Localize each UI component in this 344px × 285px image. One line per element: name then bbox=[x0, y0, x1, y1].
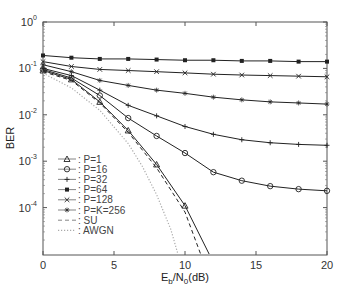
star-marker bbox=[154, 88, 159, 93]
star-marker bbox=[268, 99, 273, 104]
series-line bbox=[43, 71, 209, 254]
x-tick-label: 20 bbox=[321, 259, 333, 271]
star-marker bbox=[183, 91, 188, 96]
square-marker bbox=[41, 53, 45, 57]
y-tick-label: 100 bbox=[21, 14, 37, 28]
plus-marker bbox=[97, 88, 102, 93]
square-marker bbox=[98, 57, 102, 61]
star-marker bbox=[325, 102, 330, 107]
star-marker bbox=[211, 95, 216, 100]
series-line bbox=[43, 68, 327, 145]
square-marker bbox=[240, 59, 244, 63]
series-p-32 bbox=[41, 66, 330, 148]
legend-item: : AWGN bbox=[58, 225, 114, 236]
star-marker bbox=[41, 62, 46, 67]
square-marker bbox=[155, 58, 159, 62]
plus-marker bbox=[183, 124, 188, 129]
series-p-k-256 bbox=[41, 62, 330, 106]
plus-marker bbox=[211, 132, 216, 137]
star-marker bbox=[69, 69, 74, 74]
square-marker bbox=[183, 58, 187, 62]
plus-marker bbox=[65, 177, 70, 182]
square-marker bbox=[268, 59, 272, 63]
y-tick-label: 10-4 bbox=[19, 200, 38, 214]
plus-marker bbox=[268, 140, 273, 145]
star-marker bbox=[65, 208, 70, 213]
plus-marker bbox=[296, 142, 301, 147]
star-marker bbox=[239, 97, 244, 102]
series-line bbox=[43, 72, 201, 254]
square-marker bbox=[65, 188, 69, 192]
series-p-64 bbox=[41, 53, 329, 63]
square-marker bbox=[325, 60, 329, 64]
plus-marker bbox=[239, 137, 244, 142]
x-axis-label: Eb/N0(dB) bbox=[161, 271, 209, 285]
x-tick-label: 5 bbox=[111, 259, 117, 271]
x-tick-label: 15 bbox=[250, 259, 262, 271]
legend: : P=1: P=16: P=32: P=64: P=128: P=K=256:… bbox=[58, 154, 126, 236]
star-marker bbox=[296, 100, 301, 105]
plus-marker bbox=[154, 113, 159, 118]
y-tick-label: 10-3 bbox=[19, 153, 38, 167]
square-marker bbox=[69, 56, 73, 60]
series-p-128 bbox=[41, 59, 330, 79]
series-su bbox=[43, 72, 201, 254]
ber-chart: 0510152010010-110-210-310-4 : P=1: P=16:… bbox=[0, 0, 344, 285]
square-marker bbox=[126, 57, 130, 61]
series-p-1 bbox=[40, 68, 209, 254]
star-marker bbox=[126, 83, 131, 88]
series-line bbox=[43, 62, 327, 77]
y-tick-label: 10-2 bbox=[19, 107, 38, 121]
y-tick-label: 10-1 bbox=[19, 60, 38, 74]
square-marker bbox=[211, 58, 215, 62]
series-line bbox=[43, 65, 327, 104]
axis-ticks: 0510152010010-110-210-310-4 bbox=[19, 14, 334, 271]
star-marker bbox=[97, 78, 102, 83]
x-tick-label: 0 bbox=[40, 259, 46, 271]
y-axis-label: BER bbox=[4, 127, 16, 150]
plus-marker bbox=[126, 103, 131, 108]
square-marker bbox=[297, 60, 301, 64]
x-tick-label: 10 bbox=[179, 259, 191, 271]
legend-label: : AWGN bbox=[78, 225, 114, 236]
